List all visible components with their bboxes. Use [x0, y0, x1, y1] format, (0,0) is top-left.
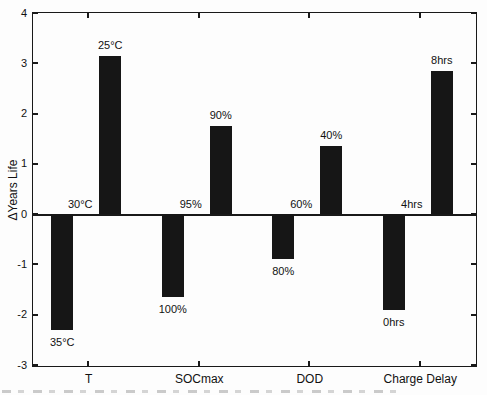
- bar-value-label: 90%: [210, 109, 232, 122]
- x-axis-category-label-socmax: SOCmax: [175, 372, 224, 386]
- bar-value-label: 8hrs: [431, 54, 452, 67]
- y-tick-left: [33, 263, 38, 265]
- x-tick-top: [198, 13, 200, 18]
- bar-positive-t: [99, 56, 121, 214]
- y-axis-tick-label: 4: [0, 7, 27, 20]
- y-axis-tick-label: -2: [0, 308, 27, 321]
- bar-positive-dod: [320, 146, 342, 214]
- baseline-value-label: 95%: [180, 198, 202, 211]
- bar-value-label: 80%: [272, 265, 294, 278]
- zero-line: [33, 214, 476, 216]
- y-tick-left: [33, 163, 38, 165]
- y-tick-right: [471, 364, 476, 366]
- y-tick-right: [471, 213, 476, 215]
- baseline-value-label: 30°C: [68, 198, 93, 211]
- y-tick-right: [471, 263, 476, 265]
- y-axis-tick-label: 3: [0, 57, 27, 70]
- bar-positive-charge-delay: [431, 71, 453, 214]
- y-tick-left: [33, 12, 38, 14]
- y-tick-left: [33, 314, 38, 316]
- bar-value-label: 40%: [320, 129, 342, 142]
- x-tick-bottom: [198, 361, 200, 366]
- bar-value-label: 35°C: [50, 336, 75, 349]
- baseline-value-label: 4hrs: [401, 198, 422, 211]
- x-tick-bottom: [419, 361, 421, 366]
- y-axis-tick-label: 2: [0, 107, 27, 120]
- baseline-value-label: 60%: [290, 198, 312, 211]
- y-axis-tick-label: 0: [0, 208, 27, 221]
- y-tick-right: [471, 314, 476, 316]
- x-axis-category-label-dod: DOD: [296, 372, 323, 386]
- x-axis-category-label-charge-delay: Charge Delay: [384, 372, 457, 386]
- x-tick-bottom: [308, 361, 310, 366]
- y-tick-right: [471, 163, 476, 165]
- plot-inner: 25°C30°C35°C90%95%100%40%60%80%8hrs4hrs0…: [33, 13, 476, 366]
- y-tick-right: [471, 62, 476, 64]
- bar-value-label: 25°C: [98, 39, 123, 52]
- x-tick-top: [308, 13, 310, 18]
- bar-negative-charge-delay: [383, 214, 405, 310]
- y-tick-left: [33, 62, 38, 64]
- y-tick-left: [33, 364, 38, 366]
- bar-value-label: 0hrs: [383, 316, 404, 329]
- cropped-caption-remnant: [2, 390, 402, 393]
- bar-negative-t: [51, 214, 73, 330]
- y-axis-tick-label: 1: [0, 157, 27, 170]
- bar-positive-socmax: [210, 126, 232, 214]
- plot-area: 25°C30°C35°C90%95%100%40%60%80%8hrs4hrs0…: [32, 12, 477, 367]
- y-axis-tick-label: -3: [0, 359, 27, 372]
- y-axis-tick-label: -1: [0, 258, 27, 271]
- y-tick-left: [33, 213, 38, 215]
- y-tick-left: [33, 113, 38, 115]
- x-tick-top: [419, 13, 421, 18]
- x-tick-bottom: [87, 361, 89, 366]
- bar-value-label: 100%: [159, 303, 187, 316]
- bar-negative-dod: [272, 214, 294, 259]
- y-tick-right: [471, 113, 476, 115]
- bar-negative-socmax: [162, 214, 184, 297]
- y-tick-right: [471, 12, 476, 14]
- chart-figure: ΔYears Life 25°C30°C35°C90%95%100%40%60%…: [0, 0, 487, 395]
- x-tick-top: [87, 13, 89, 18]
- x-axis-category-label-t: T: [85, 372, 92, 386]
